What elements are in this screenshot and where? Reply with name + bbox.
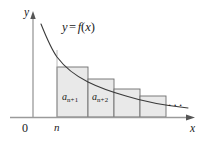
rect-label-a-n-plus-2: an+2 — [92, 92, 108, 104]
origin-label: 0 — [22, 122, 28, 134]
curve-label-equals: = — [68, 20, 78, 34]
x-tick-label-n: n — [54, 122, 60, 133]
ellipsis-label: ... — [168, 95, 184, 108]
integral-test-figure: y=f(x) an+1 an+2 0 n x y ... — [0, 0, 202, 147]
rect-label-a-n-plus-1: an+1 — [62, 92, 78, 104]
y-axis — [30, 11, 35, 118]
curve-equation-label: y=f(x) — [62, 21, 95, 34]
curve-label-close-paren: ) — [91, 20, 95, 34]
rect-4 — [140, 96, 166, 117]
y-axis-label: y — [24, 7, 29, 19]
rect-label-a1-subscript: n+1 — [67, 96, 78, 103]
figure-canvas — [0, 0, 202, 147]
curve-label-y: y — [62, 20, 68, 34]
y-axis-arrowhead — [30, 11, 35, 19]
x-axis-arrowhead — [186, 115, 195, 121]
rect-label-a2-subscript: n+2 — [97, 96, 108, 103]
x-axis-label: x — [190, 123, 195, 135]
